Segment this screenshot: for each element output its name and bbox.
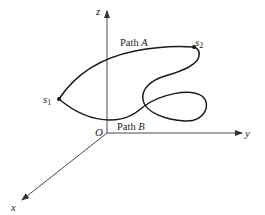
path-b-curve xyxy=(59,47,207,121)
path-a-prefix: Path xyxy=(120,37,141,48)
path-b-prefix: Path xyxy=(117,121,138,132)
s2-label: s2 xyxy=(195,36,203,50)
path-a-letter: A xyxy=(140,37,148,48)
z-axis-label: z xyxy=(95,5,101,17)
path-b-letter: B xyxy=(138,121,145,132)
diagram-svg: z y x O s1 s2 Path A Path B xyxy=(0,0,265,215)
s1-label: s1 xyxy=(43,93,51,107)
x-axis xyxy=(22,133,107,200)
path-diagram: z y x O s1 s2 Path A Path B xyxy=(0,0,265,215)
origin-label: O xyxy=(95,126,103,138)
x-axis-label: x xyxy=(10,201,16,213)
path-b-label: Path B xyxy=(117,121,145,132)
y-axis-label: y xyxy=(244,127,250,139)
s2-label-subscript: 2 xyxy=(199,41,203,50)
s1-label-subscript: 1 xyxy=(47,98,51,107)
point-s1 xyxy=(57,97,61,101)
path-a-label: Path A xyxy=(120,37,148,48)
